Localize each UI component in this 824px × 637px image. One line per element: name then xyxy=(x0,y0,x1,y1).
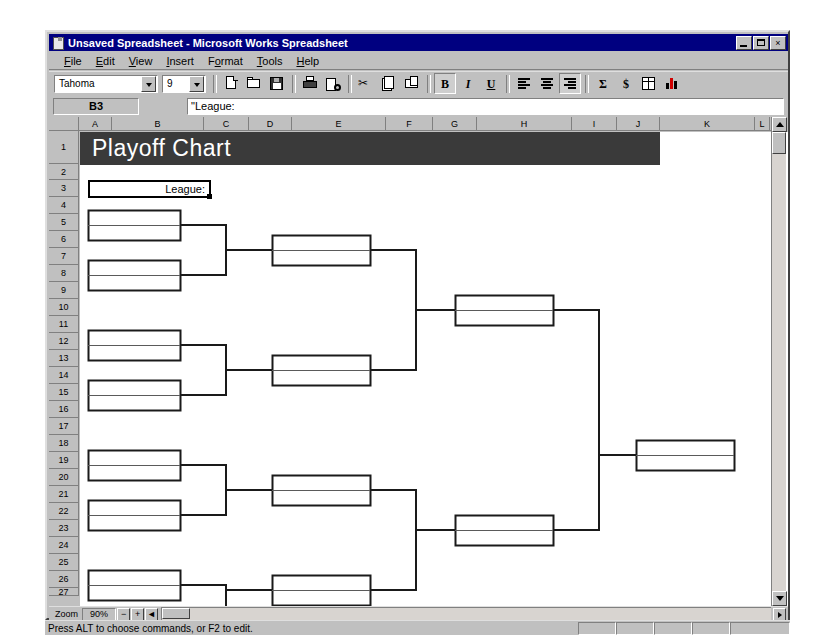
row-header-8[interactable]: 8 xyxy=(49,265,79,282)
scroll-up-button[interactable] xyxy=(772,117,787,132)
print-preview-button[interactable] xyxy=(322,73,344,94)
row-header-23[interactable]: 23 xyxy=(49,520,79,537)
row-header-24[interactable]: 24 xyxy=(49,537,79,554)
column-header-C[interactable]: C xyxy=(204,117,249,131)
row-header-21[interactable]: 21 xyxy=(49,486,79,503)
column-header-L[interactable]: L xyxy=(755,117,770,131)
row-header-6[interactable]: 6 xyxy=(49,231,79,248)
row-header-14[interactable]: 14 xyxy=(49,367,79,384)
row-header-10[interactable]: 10 xyxy=(49,299,79,316)
bracket-connector xyxy=(180,345,226,395)
row-header-4[interactable]: 4 xyxy=(49,197,79,214)
zoom-in-button[interactable]: + xyxy=(131,608,144,621)
bracket-drawing xyxy=(80,132,788,606)
align-right-button[interactable] xyxy=(559,73,581,94)
restore-button[interactable] xyxy=(753,36,769,50)
formula-input[interactable]: "League: xyxy=(187,98,784,115)
menu-item-insert[interactable]: Insert xyxy=(159,54,201,68)
chevron-down-icon[interactable] xyxy=(141,76,156,92)
row-header-15[interactable]: 15 xyxy=(49,384,79,401)
zoom-value[interactable]: 90% xyxy=(82,608,116,621)
autosum-button[interactable]: Σ xyxy=(592,73,614,94)
vertical-scrollbar[interactable] xyxy=(771,117,786,606)
row-header-2[interactable]: 2 xyxy=(49,164,79,180)
bracket-connector xyxy=(180,225,226,275)
row-header-9[interactable]: 9 xyxy=(49,282,79,299)
minimize-button[interactable] xyxy=(736,36,752,50)
underline-button[interactable]: U xyxy=(480,73,502,94)
row-header-19[interactable]: 19 xyxy=(49,452,79,469)
row-header-7[interactable]: 7 xyxy=(49,248,79,265)
column-header-H[interactable]: H xyxy=(477,117,572,131)
chevron-down-icon[interactable] xyxy=(189,76,204,92)
bracket-connector xyxy=(553,310,599,530)
align-left-button[interactable] xyxy=(513,73,535,94)
copy-button[interactable] xyxy=(378,73,400,94)
column-header-E[interactable]: E xyxy=(292,117,386,131)
column-header-K[interactable]: K xyxy=(660,117,755,131)
menu-item-file[interactable]: File xyxy=(57,54,89,68)
currency-button[interactable]: $ xyxy=(615,73,637,94)
row-header-3[interactable]: 3 xyxy=(49,180,79,197)
close-button[interactable]: × xyxy=(770,36,786,50)
row-header-26[interactable]: 26 xyxy=(49,571,79,588)
font-size-combo[interactable]: 9 xyxy=(162,75,206,93)
horizontal-scrollbar[interactable] xyxy=(161,607,771,621)
scroll-left-button[interactable]: ◄ xyxy=(145,608,158,621)
column-header-G[interactable]: G xyxy=(433,117,477,131)
scroll-right-button[interactable] xyxy=(773,608,786,621)
row-header-1[interactable]: 1 xyxy=(49,131,79,164)
italic-icon: I xyxy=(466,78,471,90)
column-header-I[interactable]: I xyxy=(572,117,617,131)
align-center-button[interactable] xyxy=(536,73,558,94)
print-button[interactable] xyxy=(299,73,321,94)
row-header-18[interactable]: 18 xyxy=(49,435,79,452)
chart-button[interactable] xyxy=(661,73,683,94)
select-all-corner[interactable] xyxy=(49,117,79,131)
menu-item-help[interactable]: Help xyxy=(289,54,326,68)
column-header-B[interactable]: B xyxy=(112,117,204,131)
row-header-5[interactable]: 5 xyxy=(49,214,79,231)
row-header-12[interactable]: 12 xyxy=(49,333,79,350)
application-window: Unsaved Spreadsheet - Microsoft Works Sp… xyxy=(45,30,790,620)
menu-item-edit[interactable]: Edit xyxy=(89,54,122,68)
horizontal-scroll-thumb[interactable] xyxy=(162,608,190,619)
vertical-scroll-thumb[interactable] xyxy=(772,132,786,154)
paste-button[interactable] xyxy=(401,73,423,94)
menu-label-insert: nsert xyxy=(169,55,193,67)
italic-button[interactable]: I xyxy=(457,73,479,94)
row-header-27[interactable]: 27 xyxy=(49,588,79,596)
selection-handle[interactable] xyxy=(207,194,212,199)
menu-item-view[interactable]: View xyxy=(122,54,160,68)
row-header-16[interactable]: 16 xyxy=(49,401,79,418)
cells-viewport[interactable]: Playoff Chart League: xyxy=(80,132,788,606)
row-header-13[interactable]: 13 xyxy=(49,350,79,367)
column-header-J[interactable]: J xyxy=(617,117,660,131)
row-header-11[interactable]: 11 xyxy=(49,316,79,333)
row-header-22[interactable]: 22 xyxy=(49,503,79,520)
league-field[interactable]: League: xyxy=(88,180,211,198)
new-document-button[interactable] xyxy=(220,73,242,94)
column-header-D[interactable]: D xyxy=(249,117,292,131)
menu-item-format[interactable]: Format xyxy=(201,54,250,68)
font-name-combo[interactable]: Tahoma xyxy=(54,75,158,93)
save-button[interactable] xyxy=(266,73,288,94)
bold-button[interactable]: B xyxy=(434,73,456,94)
row-header-17[interactable]: 17 xyxy=(49,418,79,435)
underline-icon: U xyxy=(487,78,496,90)
column-header-A[interactable]: A xyxy=(79,117,112,131)
row-header-25[interactable]: 25 xyxy=(49,554,79,571)
title-bar[interactable]: Unsaved Spreadsheet - Microsoft Works Sp… xyxy=(49,34,788,51)
open-button[interactable] xyxy=(243,73,265,94)
cut-button[interactable]: ✂ xyxy=(355,73,377,94)
zoom-out-button[interactable]: − xyxy=(117,608,130,621)
row-header-20[interactable]: 20 xyxy=(49,469,79,486)
zoom-label: Zoom xyxy=(49,609,82,619)
status-panel-3 xyxy=(654,622,692,635)
menu-item-tools[interactable]: Tools xyxy=(250,54,290,68)
column-header-F[interactable]: F xyxy=(386,117,433,131)
column-header-row: ABCDEFGHIJKLM xyxy=(49,117,788,131)
easy-calc-button[interactable] xyxy=(638,73,660,94)
cell-reference-box[interactable]: B3 xyxy=(53,98,139,115)
scroll-down-button[interactable] xyxy=(772,591,787,606)
